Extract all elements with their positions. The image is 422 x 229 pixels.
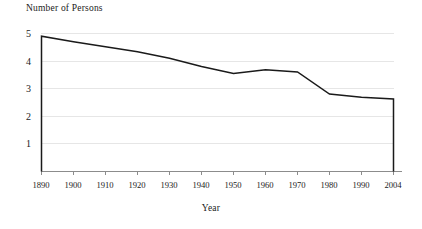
x-tick-label-1940: 1940 [192, 180, 209, 190]
y-tick-label-1: 1 [26, 138, 31, 149]
y-tick-label-2: 2 [26, 111, 31, 122]
x-tick-label-1930: 1930 [160, 180, 177, 190]
x-tick-label-1970: 1970 [288, 180, 305, 190]
data-series-line [42, 36, 394, 171]
x-tick-label-1910: 1910 [96, 180, 113, 190]
y-tick-label-5: 5 [26, 28, 31, 39]
y-tick-label-4: 4 [26, 56, 31, 67]
chart-plot-area: 5 4 3 2 1 1890 1900 1910 1920 1930 [0, 0, 422, 229]
x-axis-tick-labels: 1890 1900 1910 1920 1930 1940 1950 1960 … [32, 180, 402, 190]
x-tick-label-1990: 1990 [352, 180, 369, 190]
x-tick-label-1980: 1980 [320, 180, 337, 190]
y-tick-label-3: 3 [26, 83, 31, 94]
x-axis-tickmarks [42, 172, 394, 176]
x-tick-label-1900: 1900 [64, 180, 81, 190]
x-tick-label-1890: 1890 [32, 180, 49, 190]
y-axis-tick-labels: 5 4 3 2 1 [26, 28, 31, 149]
x-tick-label-1950: 1950 [224, 180, 241, 190]
gridlines [41, 34, 394, 144]
line-chart: Number of Persons 5 4 3 2 1 [0, 0, 422, 229]
x-tick-label-2004: 2004 [384, 180, 402, 190]
x-tick-label-1960: 1960 [256, 180, 273, 190]
x-tick-label-1920: 1920 [128, 180, 145, 190]
x-axis-title: Year [0, 203, 422, 213]
